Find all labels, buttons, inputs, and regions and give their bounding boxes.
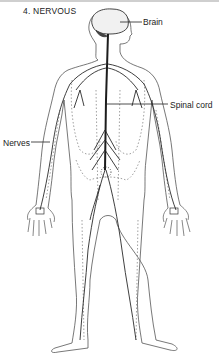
left-hand <box>27 205 54 236</box>
nervous-system-figure <box>0 0 219 354</box>
nerves <box>40 64 176 340</box>
brain <box>92 9 129 37</box>
right-hand <box>163 205 190 236</box>
spinal-cord <box>105 34 108 170</box>
leader-lines <box>31 22 168 142</box>
dotted-outlines <box>46 80 170 340</box>
